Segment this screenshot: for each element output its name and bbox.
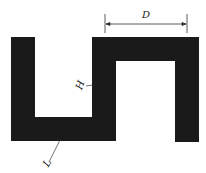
meander-trace	[11, 37, 199, 142]
leader-h	[86, 85, 93, 86]
label-d: D	[142, 10, 150, 20]
meander-diagram	[0, 0, 206, 173]
leader-l	[49, 140, 60, 162]
